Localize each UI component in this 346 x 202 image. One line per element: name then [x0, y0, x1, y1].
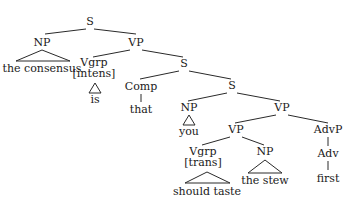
- node-vp-inner: VP: [227, 123, 244, 136]
- leaf-the-consensus: the consensus: [3, 62, 82, 75]
- triangle-vgrp-trans: [185, 172, 230, 183]
- leaf-is: is: [90, 93, 100, 106]
- edge-s-np-you: [188, 93, 227, 101]
- node-s-root: S: [86, 15, 94, 28]
- edge-vp-s: [142, 50, 183, 57]
- triangle-np-subject: [16, 50, 70, 61]
- syntax-tree-diagram: S NP the consensus VP Vgrp [intens] is S…: [0, 0, 346, 202]
- leaf-you: you: [178, 125, 199, 138]
- node-advp: AdvP: [313, 123, 343, 136]
- edge-s-vp: [94, 29, 136, 34]
- leaf-should-taste: should taste: [173, 185, 241, 198]
- triangle-vgrp-intens: [89, 83, 101, 93]
- edge-vp-inner-np: [242, 137, 264, 145]
- edge-s-comp: [140, 71, 179, 79]
- node-vgrp-intens-feature: [intens]: [73, 67, 116, 80]
- edge-vp-inner-vgrp: [202, 137, 230, 145]
- node-vp-main: VP: [127, 36, 144, 49]
- triangle-np-you: [183, 115, 195, 125]
- leaf-the-stew: the stew: [241, 174, 289, 187]
- edge-s-vp-outer: [237, 93, 280, 101]
- node-vp-outer: VP: [273, 101, 290, 114]
- node-s-inner: S: [228, 79, 236, 92]
- triangle-np-object: [248, 160, 282, 173]
- edge-s-np: [45, 29, 86, 34]
- edge-s-s: [189, 71, 231, 79]
- node-s-clause: S: [180, 57, 188, 70]
- node-np-you: NP: [180, 101, 198, 114]
- edge-vp-advp: [288, 115, 328, 123]
- node-comp: Comp: [125, 80, 158, 93]
- edge-vp-vp-inner: [235, 115, 276, 123]
- node-np-subject: NP: [33, 36, 51, 49]
- node-vgrp-trans-feature: [trans]: [184, 156, 222, 169]
- leaf-that: that: [130, 103, 153, 116]
- node-np-object: NP: [256, 145, 274, 158]
- node-adv: Adv: [316, 147, 339, 160]
- leaf-first: first: [317, 172, 340, 185]
